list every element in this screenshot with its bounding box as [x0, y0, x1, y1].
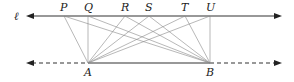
point-label-u: U [206, 1, 216, 14]
arrow-left-icon [26, 13, 34, 19]
arrow-right-icon [274, 13, 282, 19]
point-label-q: Q [84, 1, 93, 14]
arrow-left-bottom-icon [26, 60, 34, 66]
connectors-to-b [64, 16, 210, 63]
point-label-a: A [83, 66, 92, 79]
point-label-b: B [205, 66, 214, 79]
point-label-p: P [59, 1, 68, 14]
line-label: ℓ [14, 10, 19, 23]
point-label-r: R [120, 1, 129, 14]
point-label-t: T [181, 1, 190, 14]
point-label-s: S [145, 1, 153, 14]
geometry-diagram: ℓ P Q R S T U A B [0, 0, 294, 82]
arrow-right-bottom-icon [274, 60, 282, 66]
